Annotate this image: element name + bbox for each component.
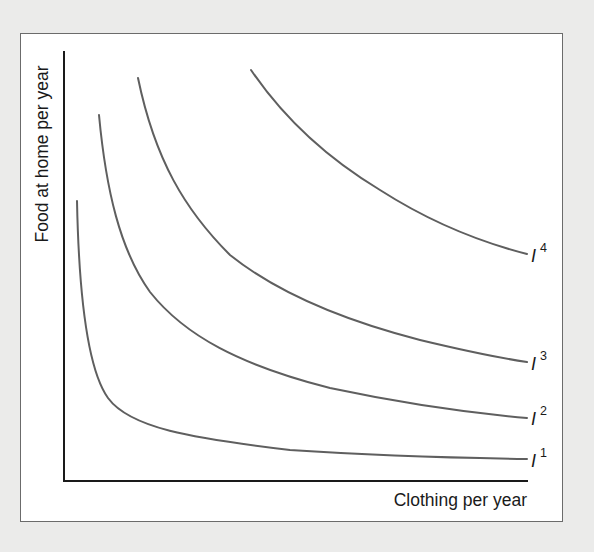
curve-i3: [138, 78, 527, 362]
svg-text:I: I: [531, 354, 536, 374]
svg-text:3: 3: [540, 349, 547, 363]
svg-text:I: I: [531, 409, 536, 429]
curve-i4: [251, 70, 527, 254]
label-i1: I 1: [531, 446, 547, 471]
label-i4: I 4: [531, 241, 547, 266]
label-i3: I 3: [531, 349, 547, 374]
svg-text:I: I: [531, 246, 536, 266]
svg-text:4: 4: [540, 241, 547, 255]
svg-text:I: I: [531, 451, 536, 471]
x-axis-label: Clothing per year: [394, 490, 527, 510]
curve-i1: [77, 201, 527, 459]
y-axis-label: Food at home per year: [32, 65, 52, 242]
svg-text:2: 2: [540, 404, 547, 418]
indifference-map: I 4 I 3 I 2 I 1 Clothing per year Food a…: [0, 0, 594, 552]
label-i2: I 2: [531, 404, 547, 429]
svg-text:1: 1: [540, 446, 547, 460]
